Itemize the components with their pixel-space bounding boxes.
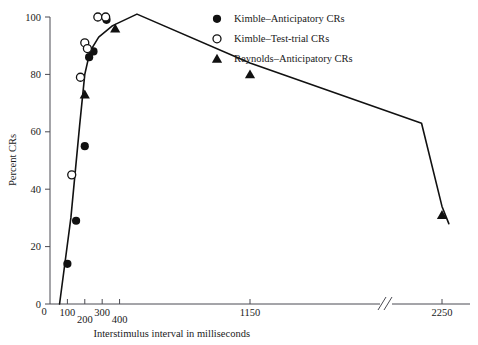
x-tick-label-300: 300: [94, 307, 110, 318]
data-point-s0-0: [63, 260, 71, 268]
legend-label-0: Kimble–Anticipatory CRs: [234, 13, 345, 24]
legend-label-2: Reynolds–Anticipatory CRs: [234, 53, 353, 64]
y-tick-label-100: 100: [25, 12, 41, 23]
data-point-s1-5: [102, 13, 110, 21]
y-tick-label-20: 20: [31, 241, 42, 252]
legend-marker-1: [213, 35, 221, 43]
data-point-s2-2: [245, 69, 255, 78]
y-axis-title: Percent CRs: [7, 134, 18, 186]
legend-marker-2: [212, 54, 222, 63]
data-point-s2-1: [110, 23, 120, 32]
x-tick-label-0: 0: [41, 306, 46, 317]
x-tick-label-200: 200: [77, 314, 93, 325]
x-tick-label-100: 100: [60, 307, 76, 318]
x-tick-label-2250: 2250: [432, 307, 453, 318]
data-point-s0-2: [81, 142, 89, 150]
data-point-s0-1: [72, 217, 80, 225]
chart-figure: 020406080100010020030040011502250Interst…: [0, 0, 478, 345]
data-point-s1-3: [83, 45, 91, 53]
y-tick-label-80: 80: [31, 69, 42, 80]
data-point-s1-4: [94, 13, 102, 21]
legend-marker-0: [213, 15, 221, 23]
x-tick-label-1150: 1150: [240, 307, 261, 318]
legend-label-1: Kimble–Test-trial CRs: [234, 33, 329, 44]
y-tick-label-40: 40: [31, 184, 42, 195]
y-tick-label-60: 60: [31, 126, 42, 137]
data-point-s2-0: [80, 89, 90, 98]
x-axis-title: Interstimulus interval in milliseconds: [93, 328, 250, 339]
y-tick-label-0: 0: [36, 299, 41, 310]
data-point-s1-1: [76, 73, 84, 81]
chart-canvas: 020406080100010020030040011502250Interst…: [0, 0, 478, 345]
data-point-s1-0: [68, 171, 76, 179]
x-tick-label-400: 400: [112, 314, 128, 325]
